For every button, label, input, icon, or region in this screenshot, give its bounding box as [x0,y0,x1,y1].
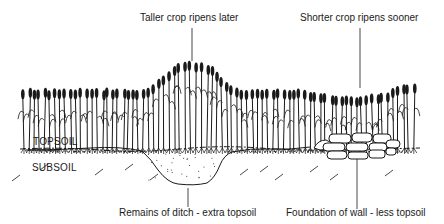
soil-speckle [41,151,42,152]
grain-ear [36,90,40,100]
grain-ear [33,90,37,100]
soil-speckle [251,151,252,152]
crop-root [302,148,308,154]
soil-speckle [167,169,168,170]
crop-stem [407,94,408,148]
soil-speckle [290,151,291,152]
crop-root [121,148,127,154]
grain-ear [283,89,287,99]
crop-stem [189,70,190,148]
grain-ear [319,93,323,103]
soil-speckle [161,165,162,166]
grain-ear [219,77,223,87]
crop-root [182,148,188,154]
crop-root [47,148,53,154]
grain-ear [123,89,127,99]
crop-stem [148,97,149,148]
crop-stem [267,98,268,148]
subsoil-hatch [310,166,318,172]
soil-speckle [212,158,213,159]
crop-leaf [111,113,117,121]
ditch-label: Remains of ditch - extra topsoil [119,208,256,218]
crop-stem [23,98,24,148]
soil-speckle [167,171,168,172]
shorter-crop-label: Shorter crop ripens sooner [300,13,418,23]
topsoil-label: TOPSOIL [33,137,78,147]
soil-speckle [165,154,166,155]
grain-ear [215,72,219,82]
soil-speckle [78,151,79,152]
crop-root [187,148,193,154]
grain-ear [167,71,171,81]
crop-root [239,148,245,154]
crop-root [41,148,47,154]
grain-ear [251,89,255,99]
soil-speckle [245,151,246,152]
soil-speckle [173,158,174,159]
grain-ear [142,89,146,99]
soil-speckle [311,151,312,152]
grain-ear [211,66,215,76]
grain-ear [194,62,198,72]
grain-ear [341,96,345,106]
soil-speckle [79,151,80,152]
soil-speckle [55,151,56,152]
subsoil-hatch [275,174,283,180]
soil-speckle [171,162,172,163]
soil-speckle [398,151,399,152]
crop-stem [196,71,197,148]
soil-speckle [275,151,276,152]
crop-stem [211,75,212,148]
soil-speckle [76,151,77,152]
soil-speckle [187,158,188,159]
grain-ear [188,61,192,71]
soil-speckle [258,151,259,152]
grain-ear [349,96,353,106]
soil-speckle [45,151,46,152]
soil-speckle [252,151,253,152]
grain-ear [391,88,395,98]
grain-ear [364,95,368,105]
crop-stem [133,99,134,148]
stone [369,150,385,158]
grain-ear [47,90,51,100]
soil-speckle [69,151,70,152]
grain-ear [323,93,327,103]
crop-root [89,148,95,154]
crop-stem [246,99,247,148]
crop-root [53,148,59,154]
soil-speckle [270,151,271,152]
crop-stem [143,98,144,148]
subsoil-hatch [95,169,103,175]
soil-speckle [102,151,103,152]
soil-speckle [155,177,156,178]
soil-speckle [399,151,400,152]
grain-ear [115,89,119,99]
soil-speckle [141,151,142,152]
crop-leaf [97,116,103,124]
crop-root [161,148,167,154]
grain-ear [225,82,229,92]
soil-speckle [283,151,284,152]
soil-speckle [308,151,309,152]
crop-root [405,148,411,154]
soil-speckle [66,151,67,152]
crop-leaf [28,110,34,118]
soil-speckle [198,171,199,172]
grain-ear [95,88,99,98]
soil-speckle [102,151,103,152]
soil-speckle [322,151,323,152]
grain-ear [173,66,177,76]
crop-leaf [351,117,357,125]
crop-root [114,148,120,154]
crop-root [411,148,417,154]
soil-speckle [189,165,190,166]
soil-speckle [213,163,214,164]
crop-root [213,148,219,154]
grain-ear [85,88,89,98]
crop-leaf [101,111,107,119]
soil-speckle [195,157,196,158]
soil-speckle [401,151,402,152]
soil-speckle [287,151,288,152]
soil-speckle [181,173,182,174]
